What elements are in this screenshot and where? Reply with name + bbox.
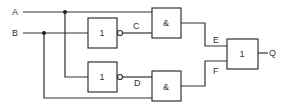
output-label-q: Q <box>269 48 276 58</box>
signal-label-f: F <box>213 66 219 76</box>
wire-e <box>181 23 227 46</box>
junction-b <box>42 31 46 35</box>
not-gate-2-bubble <box>118 75 123 80</box>
and-gate-1-symbol: & <box>163 18 169 28</box>
wire-f <box>181 61 227 86</box>
wire-a-to-not2 <box>65 12 88 77</box>
not-gate-1-symbol: 1 <box>99 28 104 38</box>
junction-a <box>63 10 67 14</box>
logic-circuit-diagram: A B 1 C 1 D & & E F 1 Q <box>0 0 284 112</box>
not-gate-1-bubble <box>118 31 123 36</box>
not-gate-2-symbol: 1 <box>99 72 104 82</box>
signal-label-e: E <box>213 35 219 45</box>
input-label-b: B <box>12 28 18 38</box>
signal-label-d: D <box>134 78 141 88</box>
input-label-a: A <box>12 7 18 17</box>
and-gate-2-symbol: & <box>163 82 169 92</box>
or-gate-symbol: 1 <box>239 49 244 59</box>
signal-label-c: C <box>133 21 140 31</box>
